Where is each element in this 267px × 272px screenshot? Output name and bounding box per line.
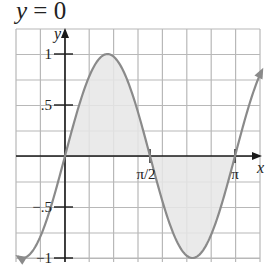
x-tick-label: π <box>231 166 239 182</box>
x-tick-label: π/2 <box>136 166 155 182</box>
y-tick-label: .5 <box>41 97 52 113</box>
y-tick-label: −1 <box>36 250 52 266</box>
y-tick-label: 1 <box>45 46 53 62</box>
sine-plot: 1.5−.5−1π/2πxy <box>0 0 267 272</box>
x-axis-label: x <box>256 159 264 176</box>
y-axis-label: y <box>52 25 62 43</box>
y-tick-label: −.5 <box>32 199 52 215</box>
